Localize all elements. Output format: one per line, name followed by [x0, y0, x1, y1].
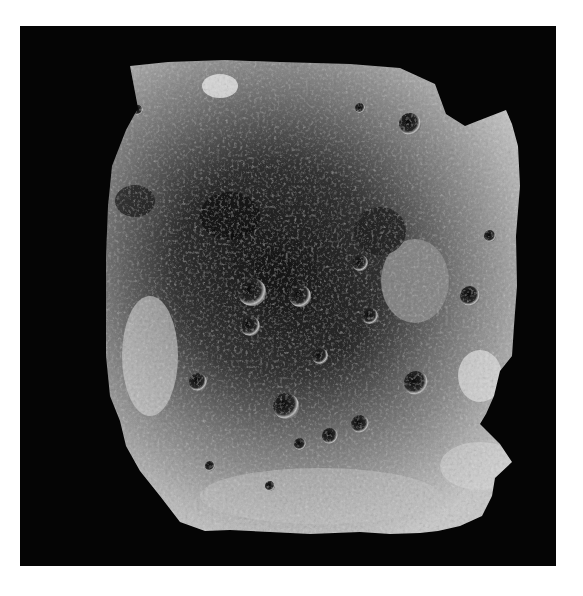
image-frame [20, 26, 556, 566]
moon-mosaic [20, 26, 556, 566]
